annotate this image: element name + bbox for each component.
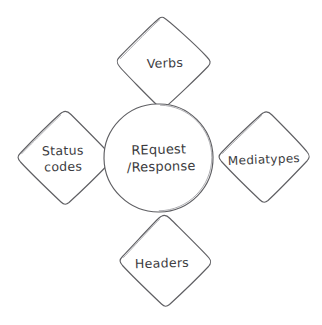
diagram-canvas: REquest /Response Verbs Status codes Med… bbox=[0, 0, 322, 325]
diamond-shape-verbs[interactable] bbox=[117, 17, 210, 108]
diamond-shape-status-codes[interactable] bbox=[18, 111, 112, 204]
diamond-shape-headers[interactable] bbox=[120, 215, 211, 306]
circle-shape-request-response[interactable] bbox=[104, 104, 213, 212]
diamond-shape-mediatypes[interactable] bbox=[219, 112, 309, 203]
diagram-shapes bbox=[0, 0, 322, 325]
